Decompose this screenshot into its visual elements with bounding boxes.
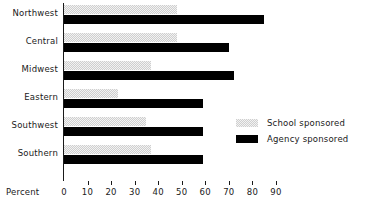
y-axis-label-central: Central	[0, 36, 58, 46]
x-axis-tick-60	[205, 181, 206, 185]
x-axis-tick-80	[252, 181, 253, 185]
y-axis-label-southern: Southern	[0, 148, 58, 158]
x-axis-tick-label-80: 80	[247, 187, 258, 197]
x-axis-tick-label-90: 90	[270, 187, 281, 197]
x-axis-tick-label-60: 60	[200, 187, 211, 197]
x-axis-tick-label-10: 10	[82, 187, 93, 197]
y-axis-label-northwest: Northwest	[0, 8, 58, 18]
x-axis-tick-90	[276, 181, 277, 185]
x-axis-tick-label-0: 0	[61, 187, 67, 197]
y-axis-label-southwest: Southwest	[0, 120, 58, 130]
x-axis-tick-label-50: 50	[176, 187, 187, 197]
bar-southwest-agency	[64, 127, 203, 136]
bar-northwest-school	[64, 5, 177, 14]
bar-northwest-agency	[64, 15, 264, 24]
bar-midwest-school	[64, 61, 151, 70]
x-axis-tick-10	[88, 181, 89, 185]
x-axis-tick-20	[111, 181, 112, 185]
x-axis-tick-label-70: 70	[223, 187, 234, 197]
legend-item-agency: Agency sponsored	[236, 132, 348, 145]
x-axis-tick-50	[182, 181, 183, 185]
bar-southern-school	[64, 145, 151, 154]
legend-label-agency: Agency sponsored	[267, 134, 348, 144]
y-axis-label-midwest: Midwest	[0, 64, 58, 74]
x-axis-title: Percent	[6, 187, 39, 197]
plot-area	[64, 4, 360, 178]
x-axis-tick-label-40: 40	[153, 187, 164, 197]
legend-item-school: School sponsored	[236, 116, 348, 129]
x-axis-tick-label-20: 20	[105, 187, 116, 197]
y-axis-label-eastern: Eastern	[0, 92, 58, 102]
bar-eastern-school	[64, 89, 118, 98]
bar-central-agency	[64, 43, 229, 52]
x-axis-tick-label-30: 30	[129, 187, 140, 197]
x-axis-tick-70	[229, 181, 230, 185]
bar-central-school	[64, 33, 177, 42]
legend-swatch-school	[236, 119, 258, 127]
chart-legend: School sponsoredAgency sponsored	[236, 116, 348, 148]
legend-swatch-agency	[236, 135, 258, 143]
bar-southwest-school	[64, 117, 146, 126]
bar-eastern-agency	[64, 99, 203, 108]
bar-midwest-agency	[64, 71, 234, 80]
x-axis-tick-30	[135, 181, 136, 185]
legend-label-school: School sponsored	[267, 118, 345, 128]
bar-southern-agency	[64, 155, 203, 164]
bar-chart: NorthwestCentralMidwestEasternSouthwestS…	[0, 0, 366, 208]
x-axis-tick-40	[158, 181, 159, 185]
